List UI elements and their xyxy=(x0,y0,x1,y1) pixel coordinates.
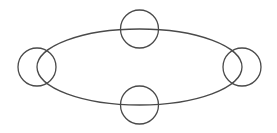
central-ellipse xyxy=(37,29,242,105)
ellipse-circles-diagram xyxy=(0,0,277,133)
